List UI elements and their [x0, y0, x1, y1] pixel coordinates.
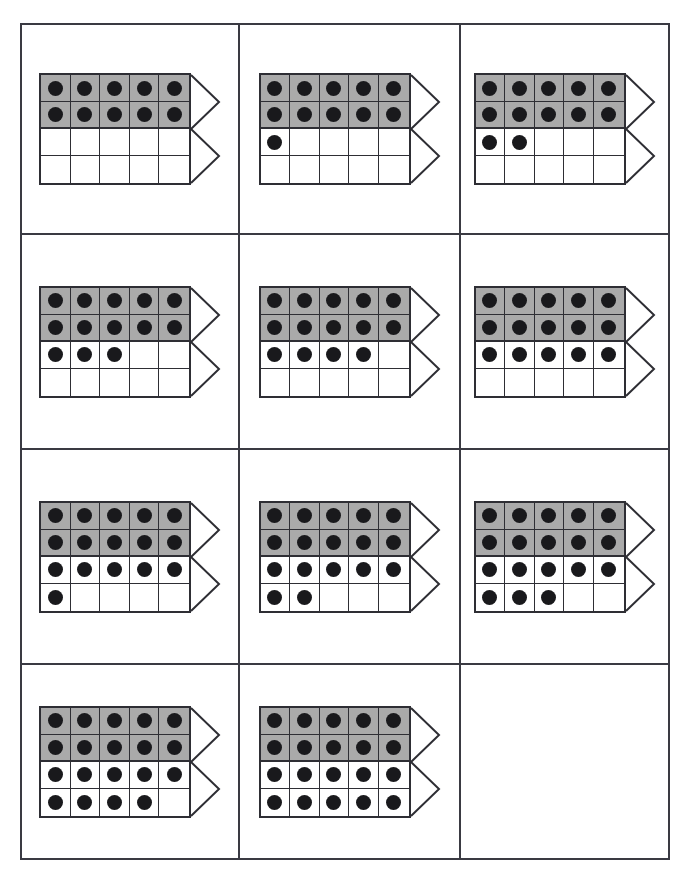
frame-cell[interactable] — [349, 342, 379, 369]
frame-cell[interactable] — [564, 503, 594, 530]
twenty-frame-panel[interactable] — [461, 25, 668, 235]
frame-cell[interactable] — [100, 557, 130, 584]
frame-cell[interactable] — [379, 503, 409, 530]
frame-cell[interactable] — [379, 584, 409, 611]
frame-cell[interactable] — [41, 762, 71, 789]
frame-cell[interactable] — [130, 75, 160, 102]
frame-cell[interactable] — [290, 102, 320, 129]
frame-cell[interactable] — [130, 156, 160, 183]
frame-cell[interactable] — [505, 288, 535, 315]
frame-cell[interactable] — [261, 708, 291, 735]
frame-cell[interactable] — [320, 503, 350, 530]
frame-cell[interactable] — [71, 342, 101, 369]
frame-cell[interactable] — [290, 369, 320, 396]
frame-cell[interactable] — [379, 342, 409, 369]
frame-cell[interactable] — [320, 156, 350, 183]
frame-cell[interactable] — [349, 156, 379, 183]
frame-cell[interactable] — [320, 789, 350, 816]
frame-cell[interactable] — [71, 584, 101, 611]
frame-cell[interactable] — [535, 530, 565, 557]
twenty-frame-panel[interactable] — [461, 235, 668, 450]
frame-cell[interactable] — [349, 708, 379, 735]
frame-cell[interactable] — [71, 75, 101, 102]
frame-cell[interactable] — [290, 342, 320, 369]
frame-cell[interactable] — [320, 735, 350, 762]
frame-cell[interactable] — [476, 369, 506, 396]
frame-cell[interactable] — [290, 762, 320, 789]
twenty-frame-panel[interactable] — [461, 665, 668, 858]
frame-cell[interactable] — [594, 584, 624, 611]
frame-cell[interactable] — [379, 156, 409, 183]
frame-cell[interactable] — [71, 735, 101, 762]
frame-cell[interactable] — [320, 342, 350, 369]
frame-cell[interactable] — [349, 75, 379, 102]
frame-cell[interactable] — [71, 288, 101, 315]
frame-cell[interactable] — [476, 129, 506, 156]
frame-cell[interactable] — [505, 503, 535, 530]
frame-cell[interactable] — [564, 156, 594, 183]
frame-cell[interactable] — [379, 102, 409, 129]
frame-cell[interactable] — [379, 708, 409, 735]
frame-cell[interactable] — [535, 75, 565, 102]
frame-cell[interactable] — [261, 789, 291, 816]
frame-cell[interactable] — [505, 557, 535, 584]
frame-cell[interactable] — [130, 735, 160, 762]
frame-cell[interactable] — [349, 503, 379, 530]
frame-cell[interactable] — [564, 557, 594, 584]
frame-cell[interactable] — [320, 584, 350, 611]
frame-cell[interactable] — [320, 557, 350, 584]
frame-cell[interactable] — [535, 129, 565, 156]
frame-cell[interactable] — [594, 156, 624, 183]
frame-cell[interactable] — [130, 530, 160, 557]
frame-cell[interactable] — [130, 762, 160, 789]
frame-cell[interactable] — [594, 530, 624, 557]
frame-cell[interactable] — [100, 530, 130, 557]
frame-cell[interactable] — [71, 789, 101, 816]
frame-cell[interactable] — [290, 503, 320, 530]
frame-cell[interactable] — [594, 503, 624, 530]
frame-cell[interactable] — [290, 156, 320, 183]
frame-cell[interactable] — [41, 102, 71, 129]
frame-cell[interactable] — [379, 557, 409, 584]
frame-cell[interactable] — [261, 75, 291, 102]
frame-cell[interactable] — [159, 156, 189, 183]
frame-cell[interactable] — [41, 288, 71, 315]
frame-cell[interactable] — [41, 584, 71, 611]
frame-cell[interactable] — [290, 75, 320, 102]
frame-cell[interactable] — [261, 342, 291, 369]
frame-cell[interactable] — [476, 342, 506, 369]
frame-cell[interactable] — [349, 102, 379, 129]
frame-cell[interactable] — [320, 102, 350, 129]
frame-cell[interactable] — [320, 129, 350, 156]
frame-cell[interactable] — [261, 288, 291, 315]
frame-cell[interactable] — [41, 708, 71, 735]
frame-cell[interactable] — [261, 129, 291, 156]
frame-cell[interactable] — [379, 75, 409, 102]
twenty-frame-panel[interactable] — [461, 450, 668, 665]
frame-cell[interactable] — [505, 156, 535, 183]
twenty-frame-panel[interactable] — [240, 450, 461, 665]
twenty-frame-panel[interactable] — [240, 235, 461, 450]
frame-cell[interactable] — [130, 503, 160, 530]
frame-cell[interactable] — [159, 789, 189, 816]
frame-cell[interactable] — [290, 789, 320, 816]
frame-cell[interactable] — [594, 129, 624, 156]
frame-cell[interactable] — [159, 315, 189, 342]
frame-cell[interactable] — [41, 789, 71, 816]
frame-cell[interactable] — [100, 789, 130, 816]
frame-cell[interactable] — [41, 129, 71, 156]
frame-cell[interactable] — [349, 369, 379, 396]
frame-cell[interactable] — [379, 129, 409, 156]
frame-cell[interactable] — [349, 735, 379, 762]
frame-cell[interactable] — [130, 129, 160, 156]
frame-cell[interactable] — [476, 557, 506, 584]
frame-cell[interactable] — [505, 584, 535, 611]
frame-cell[interactable] — [41, 342, 71, 369]
frame-cell[interactable] — [261, 530, 291, 557]
frame-cell[interactable] — [100, 584, 130, 611]
twenty-frame-panel[interactable] — [22, 25, 240, 235]
frame-cell[interactable] — [130, 584, 160, 611]
frame-cell[interactable] — [535, 557, 565, 584]
frame-cell[interactable] — [320, 315, 350, 342]
frame-cell[interactable] — [71, 369, 101, 396]
